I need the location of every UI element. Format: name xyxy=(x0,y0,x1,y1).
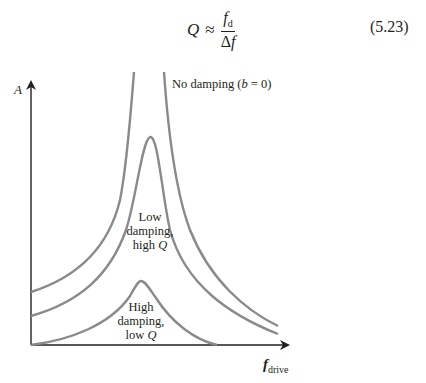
low-damping-line1: Low xyxy=(122,210,178,224)
resonance-plot xyxy=(0,0,426,383)
low-damping-label: Low damping, high Q xyxy=(122,210,178,252)
low-damping-line2: damping, xyxy=(122,224,178,238)
no-damping-rest: = 0) xyxy=(248,77,272,91)
low-damping-line3: high Q xyxy=(122,238,178,252)
x-axis-subscript: drive xyxy=(268,364,289,375)
no-damping-label: No damping (b = 0) xyxy=(172,77,271,91)
high-damping-label: High damping, low Q xyxy=(113,300,169,342)
low-damping-line3-text: high xyxy=(133,238,158,252)
x-axis-label: fdrive xyxy=(263,357,289,377)
no-damping-text: No damping ( xyxy=(172,77,241,91)
y-axis-label: A xyxy=(14,83,22,97)
high-damping-line3: low Q xyxy=(113,328,169,342)
curve-no-damping-right xyxy=(164,72,278,326)
high-damping-line2: damping, xyxy=(113,314,169,328)
high-damping-line3-text: low xyxy=(126,328,148,342)
high-damping-line3-var: Q xyxy=(147,328,156,342)
low-damping-line3-var: Q xyxy=(158,238,167,252)
high-damping-line1: High xyxy=(113,300,169,314)
curve-no-damping-left xyxy=(31,72,134,292)
